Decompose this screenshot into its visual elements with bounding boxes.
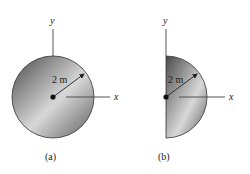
figure-b: y x 2 m (b): [158, 15, 234, 163]
x-axis-label-b: x: [228, 91, 234, 102]
diagram-canvas: y x 2 m (a) y x 2 m (b): [0, 0, 250, 174]
x-axis-label-a: x: [113, 91, 119, 102]
radius-label-a: 2 m: [52, 74, 68, 85]
radius-label-b: 2 m: [168, 74, 184, 85]
figure-a: y x 2 m (a): [12, 15, 119, 163]
center-dot-a: [50, 94, 55, 99]
caption-b: (b): [158, 151, 170, 163]
y-axis-label-b: y: [162, 15, 168, 26]
center-dot-b: [163, 94, 168, 99]
y-axis-label-a: y: [49, 15, 55, 26]
caption-a: (a): [45, 151, 56, 163]
